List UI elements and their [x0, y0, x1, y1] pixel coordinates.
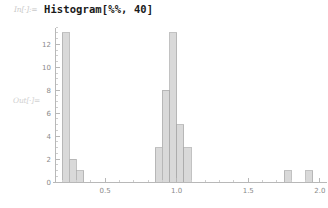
histogram-bars [62, 33, 313, 182]
x-tick-label: 0.5 [100, 187, 111, 195]
histogram-bar [306, 171, 313, 182]
y-tick-label: 6 [47, 110, 52, 118]
histogram-bar [184, 148, 191, 182]
histogram-bar [284, 171, 291, 182]
histogram-bar [155, 148, 162, 182]
x-tick-label: 1.5 [243, 187, 254, 195]
y-axis-ticks: 024681012 [42, 27, 60, 186]
histogram-bar [177, 125, 184, 182]
x-tick-label: 1.0 [171, 187, 182, 195]
histogram-svg: 0.51.01.52.0 024681012 [40, 18, 328, 198]
in-prompt-label: In[·]:= [14, 5, 37, 14]
input-code-text[interactable]: Histogram[%%, 40] [44, 3, 153, 15]
x-tick-label: 2.0 [314, 187, 325, 195]
histogram-bar [170, 33, 177, 182]
histogram-plot[interactable]: 0.51.01.52.0 024681012 [40, 18, 328, 198]
histogram-bar [62, 33, 69, 182]
histogram-bar [69, 159, 76, 182]
y-tick-label: 0 [47, 179, 51, 187]
y-tick-label: 8 [47, 87, 51, 95]
y-tick-label: 12 [42, 41, 51, 49]
y-tick-label: 4 [47, 133, 52, 141]
out-prompt-label: Out[·]= [13, 96, 40, 105]
y-tick-label: 10 [42, 64, 51, 72]
histogram-bar [162, 90, 169, 182]
histogram-bar [76, 171, 83, 182]
y-tick-label: 2 [47, 156, 51, 164]
